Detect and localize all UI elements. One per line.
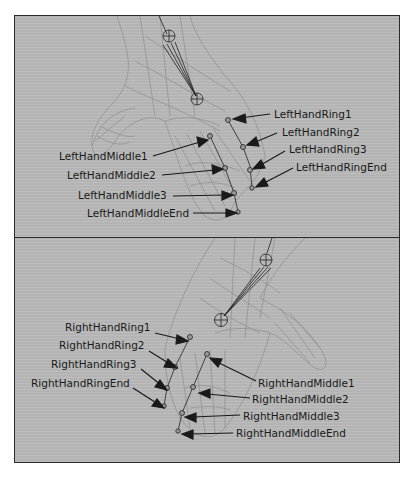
label-left-hand-ring2: LeftHandRing2 <box>282 126 360 138</box>
label-right-hand-middle3: RightHandMiddle3 <box>243 410 340 422</box>
arm-bone <box>214 238 272 327</box>
label-right-hand-ring3: RightHandRing3 <box>51 358 137 370</box>
label-left-hand-ring3: LeftHandRing3 <box>289 143 367 155</box>
label-right-hand-middle1: RightHandMiddle1 <box>258 377 355 389</box>
label-left-hand-middle1: LeftHandMiddle1 <box>59 150 148 162</box>
label-right-hand-ring-end: RightHandRingEnd <box>31 377 130 389</box>
left-hand-viewport: LeftHandRing1 LeftHandRing2 LeftHandRing… <box>14 15 400 238</box>
label-right-hand-middle2: RightHandMiddle2 <box>252 393 349 405</box>
label-left-hand-middle3: LeftHandMiddle3 <box>78 189 167 201</box>
label-right-hand-ring2: RightHandRing2 <box>59 339 145 351</box>
label-left-hand-middle2: LeftHandMiddle2 <box>67 169 156 181</box>
ring-finger-bones <box>226 118 255 191</box>
right-hand-viewport: RightHandRing1 RightHandRing2 RightHandR… <box>14 237 400 463</box>
label-left-hand-middle-end: LeftHandMiddleEnd <box>87 207 189 219</box>
label-left-hand-ring-end: LeftHandRingEnd <box>296 161 387 173</box>
label-right-hand-middle-end: RightHandMiddleEnd <box>236 427 346 439</box>
label-right-hand-ring1: RightHandRing1 <box>65 321 151 333</box>
label-left-hand-ring1: LeftHandRing1 <box>274 108 352 120</box>
arm-bone <box>159 16 203 105</box>
